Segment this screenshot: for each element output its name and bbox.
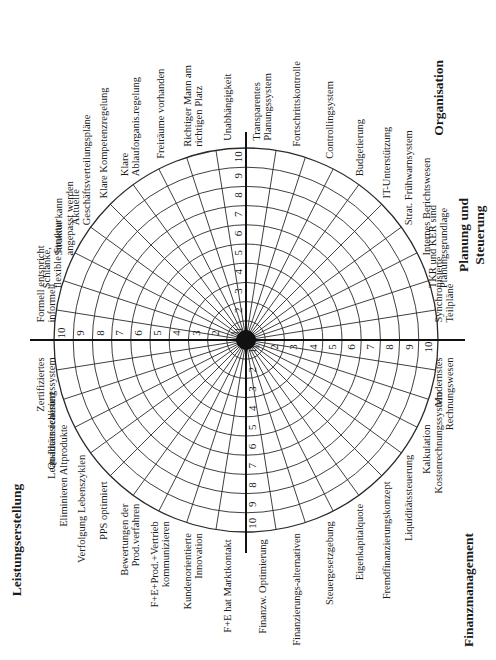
- svg-text:Klare Kompetenzregelung: Klare Kompetenzregelung: [98, 87, 109, 199]
- spoke: [246, 185, 359, 340]
- criterion-label: Kalkulation: [421, 424, 432, 474]
- criterion-label: SynchronisierteTeilpläne: [433, 256, 455, 322]
- scale-number: 5: [246, 424, 258, 430]
- scale-number: 4: [246, 405, 258, 411]
- scale-number: 9: [74, 330, 86, 336]
- spoke: [246, 340, 333, 511]
- svg-text:Kostenrechnungssystem: Kostenrechnungssystem: [433, 392, 444, 494]
- spoke: [246, 169, 333, 340]
- scale-number: 10: [232, 151, 244, 163]
- criterion-label: KlareAblauforganis.regelung: [119, 76, 141, 176]
- spoke: [246, 340, 359, 495]
- svg-text:Planungssystem: Planungssystem: [262, 73, 273, 141]
- criterion-label: F+E hat Marktkontakt: [222, 539, 233, 632]
- criterion-label: Liquiditätssteuerung: [403, 454, 414, 541]
- criterion-label: Unabhängigkeit: [222, 74, 233, 141]
- scale-number: 7: [113, 330, 125, 336]
- scale-number: 4: [232, 269, 244, 275]
- svg-text:F+E+Prod.+Vertrieb: F+E+Prod.+Vertrieb: [149, 521, 160, 607]
- scale-number: 3: [232, 288, 244, 294]
- svg-text:Finanzierungs-alternativen: Finanzierungs-alternativen: [291, 532, 302, 645]
- center-dot: [236, 330, 256, 350]
- quadrant-title: Finanzmanagement: [461, 533, 476, 647]
- criterion-label: Finanzierungs-alternativen: [291, 532, 302, 645]
- criterion-label: Verfolgung Lebenszyklen: [76, 454, 87, 563]
- svg-text:Freiräume vorhanden: Freiräume vorhanden: [155, 68, 166, 159]
- criterion-label: AktuelleGeschäftsverteilungspläne: [70, 114, 92, 225]
- quadrant-title: Leistungserstellung: [9, 483, 24, 596]
- spoke: [75, 340, 246, 427]
- svg-text:Teilpläne: Teilpläne: [444, 283, 455, 322]
- scale-number: 3: [246, 386, 258, 392]
- criterion-label: Eliminieren Altprodukte: [58, 424, 69, 527]
- criterion-label: Kostenrechnungssystem: [433, 392, 444, 494]
- spoke: [246, 204, 382, 340]
- scale-number: 4: [307, 344, 319, 350]
- spoke: [75, 253, 246, 340]
- svg-text:Controllingsystem: Controllingsystem: [324, 81, 335, 159]
- scale-number: 9: [232, 173, 244, 179]
- svg-text:Ablauforganis.regelung: Ablauforganis.regelung: [130, 76, 141, 176]
- scale-number: 7: [232, 211, 244, 217]
- svg-text:Schlanke,: Schlanke,: [41, 247, 52, 288]
- svg-text:Struktur kann: Struktur kann: [53, 197, 64, 255]
- spoke: [246, 340, 401, 453]
- criterion-label: Eigenkapitalquote: [354, 504, 365, 581]
- criterion-label: Bewertungen derProd.verfahren: [119, 503, 141, 576]
- scale-number: 10: [246, 517, 258, 529]
- scale-number: 6: [132, 330, 144, 336]
- svg-text:Qualitätssicherungssystem: Qualitätssicherungssystem: [46, 357, 57, 469]
- scale-number: 5: [326, 344, 338, 350]
- scale-number: 10: [55, 327, 67, 339]
- svg-text:Strat. Frühwarnsystem: Strat. Frühwarnsystem: [403, 130, 414, 225]
- svg-text:Kundenorientierte: Kundenorientierte: [182, 533, 193, 610]
- svg-text:IT-Unterstützung: IT-Unterstützung: [381, 126, 392, 199]
- spoke: [246, 253, 417, 340]
- criterion-label: Controllingsystem: [324, 81, 335, 159]
- scale-number: 3: [190, 330, 202, 336]
- spoke: [133, 185, 246, 340]
- svg-text:Liquiditätssteuerung: Liquiditätssteuerung: [403, 454, 414, 541]
- criterion-label: Steuergesetzgebung: [324, 521, 335, 606]
- svg-text:Innovation: Innovation: [193, 532, 204, 578]
- scale-number: 2: [268, 344, 280, 350]
- spoke: [246, 340, 417, 427]
- svg-text:Transparentes: Transparentes: [251, 82, 262, 141]
- spoke: [159, 340, 246, 511]
- svg-text:Budgetierung: Budgetierung: [354, 118, 365, 176]
- spoke: [91, 340, 246, 453]
- svg-text:richtigen Platz: richtigen Platz: [193, 86, 204, 147]
- svg-text:Eliminieren Altprodukte: Eliminieren Altprodukte: [58, 424, 69, 527]
- svg-text:Steuergesetzgebung: Steuergesetzgebung: [324, 521, 335, 606]
- svg-text:Richtiger Mann am: Richtiger Mann am: [182, 65, 193, 147]
- scale-number: 5: [151, 330, 163, 336]
- quadrant-title: Steuerung: [472, 205, 487, 265]
- svg-text:F+E hat Marktkontakt: F+E hat Marktkontakt: [222, 539, 233, 632]
- criterion-label: Strat. Frühwarnsystem: [403, 130, 414, 225]
- svg-text:informell: informell: [46, 283, 57, 322]
- criterion-label: IT-Unterstützung: [381, 126, 392, 199]
- criterion-label: PPS optimiert: [98, 481, 109, 540]
- scale-number: 8: [383, 344, 395, 350]
- scale-number: 9: [403, 344, 415, 350]
- scale-number: 9: [246, 501, 258, 507]
- scale-number: 8: [232, 192, 244, 198]
- quadrant-title: Planung und: [456, 198, 471, 272]
- scale-number: 4: [170, 330, 182, 336]
- svg-text:Kalkulation: Kalkulation: [421, 424, 432, 474]
- svg-text:Unabhängigkeit: Unabhängigkeit: [222, 74, 233, 141]
- spoke: [110, 340, 246, 476]
- criterion-label: Fremdfinanzierungskonzept: [381, 481, 392, 599]
- svg-text:Verfolgung Lebenszyklen: Verfolgung Lebenszyklen: [76, 454, 87, 563]
- scale-number: 2: [246, 367, 258, 373]
- svg-text:Finanzw. Optimierung: Finanzw. Optimierung: [257, 538, 268, 633]
- criterion-label: Freiräume vorhanden: [155, 68, 166, 159]
- svg-text:Prod.verfahren: Prod.verfahren: [130, 503, 141, 566]
- spoke: [246, 340, 382, 476]
- spoke: [133, 340, 246, 495]
- scale-number: 2: [232, 307, 244, 313]
- scale-number: 8: [94, 330, 106, 336]
- criterion-label: Richtiger Mann amrichtigen Platz: [182, 65, 204, 147]
- scale-number: 2: [209, 330, 221, 336]
- scale-number: 6: [232, 230, 244, 236]
